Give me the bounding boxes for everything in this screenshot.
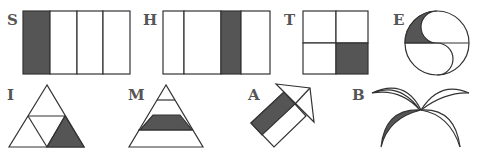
label-a: A bbox=[247, 86, 260, 104]
label-i: I bbox=[7, 86, 14, 104]
label-b: B bbox=[352, 86, 365, 104]
label-t: T bbox=[284, 11, 296, 29]
figure-m: M bbox=[128, 85, 203, 147]
figure-s: S bbox=[7, 11, 130, 74]
figure-t: T bbox=[284, 11, 368, 74]
label-e: E bbox=[393, 11, 404, 29]
figure-a: A bbox=[247, 84, 314, 147]
shapes-diagram: S H T E I M bbox=[0, 0, 478, 148]
shaded-strip bbox=[221, 11, 241, 74]
figure-b: B bbox=[352, 86, 469, 147]
label-h: H bbox=[143, 11, 157, 29]
shaded-quarter bbox=[336, 43, 368, 74]
label-m: M bbox=[128, 86, 145, 104]
figure-h: H bbox=[143, 11, 270, 74]
shaded-strip bbox=[23, 11, 50, 74]
figure-e: E bbox=[393, 11, 469, 75]
label-s: S bbox=[7, 11, 18, 29]
figure-i: I bbox=[7, 85, 84, 147]
shaded-leaf bbox=[381, 110, 421, 147]
